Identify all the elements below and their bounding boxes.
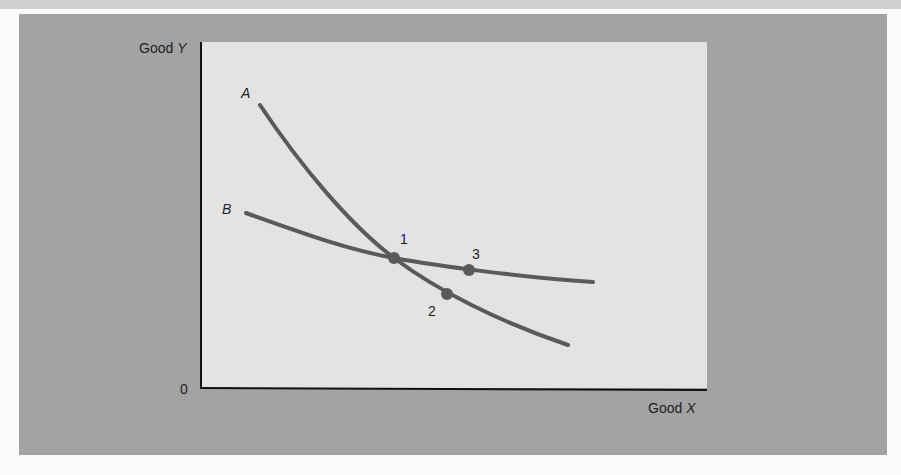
curve-a-label: A <box>241 85 250 101</box>
x-axis <box>200 388 707 390</box>
point-3-label: 3 <box>472 246 480 262</box>
curve-a <box>260 105 568 345</box>
curve-b <box>246 213 593 282</box>
chart-svg <box>0 0 901 475</box>
curve-b-label: B <box>222 201 231 217</box>
origin-label: 0 <box>180 381 188 397</box>
point-2-label: 2 <box>428 303 436 319</box>
x-axis-label: Good X <box>648 400 695 416</box>
point-1-marker <box>388 252 400 264</box>
point-2-marker <box>441 288 453 300</box>
point-3-marker <box>463 264 475 276</box>
point-1-label: 1 <box>400 231 408 247</box>
y-axis-label: Good Y <box>139 40 186 56</box>
